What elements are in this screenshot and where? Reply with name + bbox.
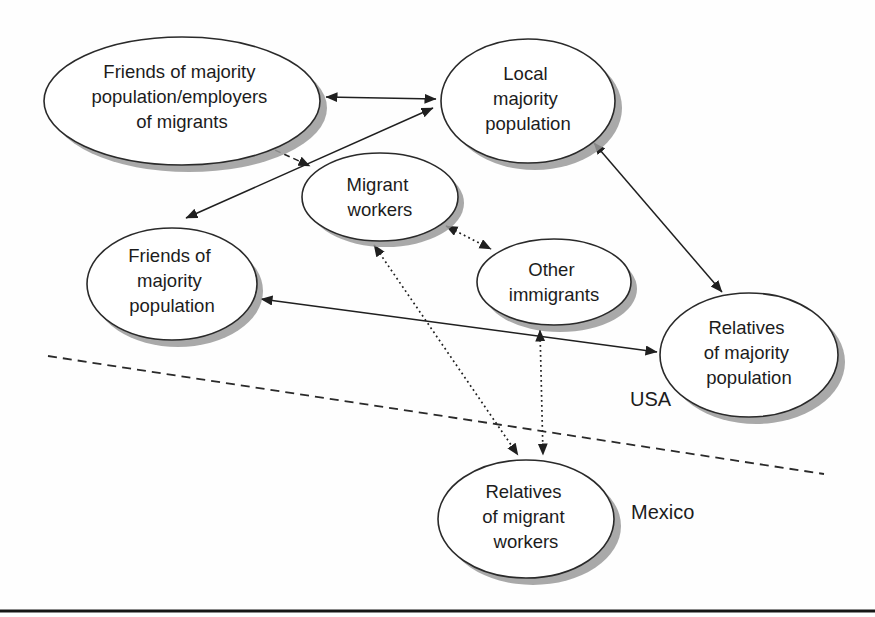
node-migrant-workers: Migrant workers bbox=[302, 153, 464, 247]
node-employers: Friends of majority population/employers… bbox=[44, 37, 327, 172]
edge-migrant-workers-other-immigrants bbox=[446, 226, 491, 249]
node-relatives-majority: Relatives of majority population bbox=[660, 293, 845, 424]
node-friends-majority-line2: majority bbox=[137, 270, 203, 291]
node-relatives-migrant-label: Relatives of migrant workers bbox=[482, 481, 569, 552]
node-relatives-migrant-line3: workers bbox=[493, 531, 559, 552]
node-local-majority: Local majority population bbox=[441, 39, 622, 170]
node-employers-line1: Friends of majority bbox=[103, 61, 256, 82]
node-relatives-majority-line3: population bbox=[706, 367, 791, 388]
node-relatives-majority-line1: Relatives bbox=[708, 317, 784, 338]
node-local-majority-line1: Local bbox=[503, 63, 547, 84]
node-migrant-workers-line1: Migrant bbox=[347, 174, 409, 195]
node-other-immigrants: Other immigrants bbox=[477, 239, 637, 332]
node-other-immigrants-ellipse bbox=[477, 239, 631, 325]
node-friends-majority-line3: population bbox=[129, 295, 214, 316]
node-local-majority-line3: population bbox=[485, 113, 570, 134]
node-other-immigrants-line1: Other bbox=[528, 259, 574, 280]
migration-network-diagram: Friends of majority population/employers… bbox=[0, 0, 875, 617]
node-local-majority-line2: majority bbox=[493, 88, 559, 109]
node-migrant-workers-ellipse bbox=[302, 153, 458, 241]
node-friends-majority: Friends of majority population bbox=[87, 228, 263, 347]
node-friends-majority-label: Friends of majority population bbox=[128, 245, 215, 316]
usa-label: USA bbox=[630, 388, 672, 410]
edge-employers-local-majority bbox=[326, 97, 436, 99]
node-relatives-migrant-line1: Relatives bbox=[485, 481, 561, 502]
node-other-immigrants-line2: immigrants bbox=[509, 284, 599, 305]
node-relatives-migrant-line2: of migrant bbox=[482, 506, 564, 527]
node-migrant-workers-line2: workers bbox=[347, 199, 413, 220]
mexico-label: Mexico bbox=[631, 501, 694, 523]
edge-other-immigrants-relatives-migrant bbox=[540, 330, 543, 455]
node-relatives-majority-line2: of majority bbox=[704, 342, 790, 363]
diagram-page: Friends of majority population/employers… bbox=[0, 0, 875, 617]
node-employers-line2: population/employers bbox=[92, 86, 268, 107]
node-relatives-majority-label: Relatives of majority population bbox=[704, 317, 794, 388]
node-friends-majority-line1: Friends of bbox=[128, 245, 211, 266]
node-relatives-migrant: Relatives of migrant workers bbox=[438, 460, 621, 585]
node-employers-line3: of migrants bbox=[136, 111, 228, 132]
